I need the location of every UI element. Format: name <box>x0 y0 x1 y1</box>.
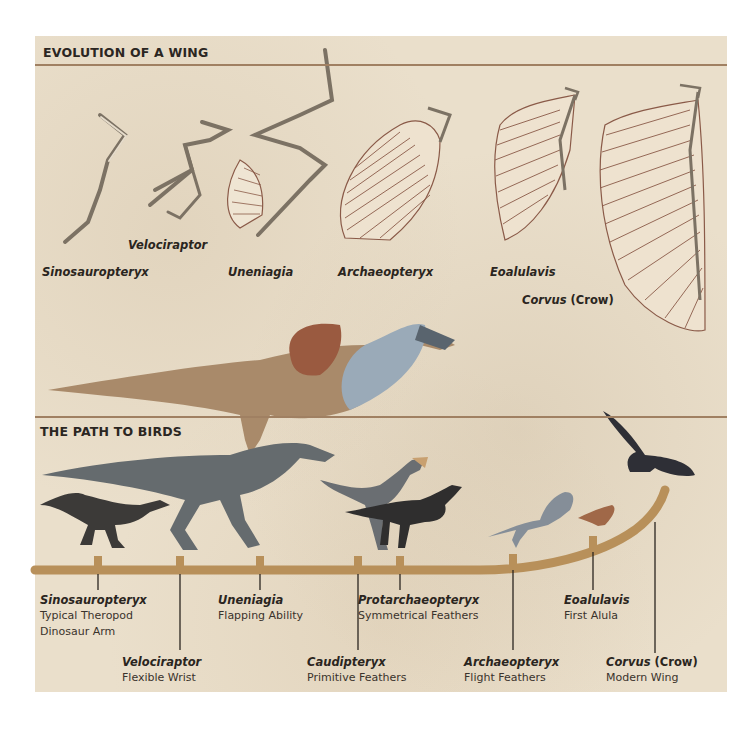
wing-label-uneniagia: Uneniagia <box>228 265 293 279</box>
node-name: Archaeopteryx <box>464 654 559 670</box>
wing-label-velociraptor: Velociraptor <box>128 238 207 252</box>
eoalulavis-bird-icon <box>578 505 614 526</box>
timeline-node-archaeopteryx: Archaeopteryx Flight Feathers <box>464 654 559 686</box>
timeline-node-sinosauropteryx: Sinosauropteryx Typical Theropod Dinosau… <box>40 592 147 640</box>
sinosauropteryx-arm-bones-icon <box>65 115 126 242</box>
node-name-text: Corvus <box>606 655 651 669</box>
node-desc: Symmetrical Feathers <box>358 608 479 624</box>
node-desc: Typical Theropod <box>40 608 147 624</box>
wing-label-corvus-suffix: (Crow) <box>571 293 614 307</box>
node-name: Corvus (Crow) <box>606 654 698 670</box>
node-name: Uneniagia <box>218 592 303 608</box>
sinosauropteryx-dinosaur-icon <box>40 493 170 548</box>
corvus-bird-icon <box>603 411 695 476</box>
wing-label-archaeopteryx: Archaeopteryx <box>338 265 433 279</box>
corvus-wing-icon <box>600 85 705 331</box>
wing-label-corvus: Corvus (Crow) <box>522 293 614 307</box>
node-desc: Dinosaur Arm <box>40 624 147 640</box>
timeline-node-protarchaeopteryx: Protarchaeopteryx Symmetrical Feathers <box>358 592 479 624</box>
timeline-node-eoalulavis: Eoalulavis First Alula <box>564 592 630 624</box>
node-desc: Flexible Wrist <box>122 670 201 686</box>
wing-label-eoalulavis: Eoalulavis <box>490 265 556 279</box>
uneniagia-arm-bones-icon <box>228 50 332 235</box>
node-name: Sinosauropteryx <box>40 592 147 608</box>
node-desc: Primitive Feathers <box>307 670 406 686</box>
node-name: Caudipteryx <box>307 654 406 670</box>
node-desc: Modern Wing <box>606 670 698 686</box>
node-desc: First Alula <box>564 608 630 624</box>
velociraptor-arm-bones-icon <box>150 122 228 218</box>
node-name-suffix: (Crow) <box>655 655 698 669</box>
timeline-node-corvus: Corvus (Crow) Modern Wing <box>606 654 698 686</box>
wing-label-sinosauropteryx: Sinosauropteryx <box>42 265 149 279</box>
node-desc: Flapping Ability <box>218 608 303 624</box>
timeline-node-uneniagia: Uneniagia Flapping Ability <box>218 592 303 624</box>
timeline-node-caudipteryx: Caudipteryx Primitive Feathers <box>307 654 406 686</box>
path-to-birds-title: THE PATH TO BIRDS <box>40 424 182 439</box>
node-name: Protarchaeopteryx <box>358 592 479 608</box>
node-name: Velociraptor <box>122 654 201 670</box>
archaeopteryx-wing-icon <box>341 108 450 240</box>
middle-divider <box>35 416 727 418</box>
wing-label-corvus-name: Corvus <box>522 293 567 307</box>
timeline-node-velociraptor: Velociraptor Flexible Wrist <box>122 654 201 686</box>
eoalulavis-wing-icon <box>495 88 578 240</box>
node-name: Eoalulavis <box>564 592 630 608</box>
archaeopteryx-bird-icon <box>488 492 573 548</box>
top-divider <box>35 64 727 66</box>
node-desc: Flight Feathers <box>464 670 559 686</box>
evolution-of-a-wing-title: EVOLUTION OF A WING <box>43 45 208 60</box>
